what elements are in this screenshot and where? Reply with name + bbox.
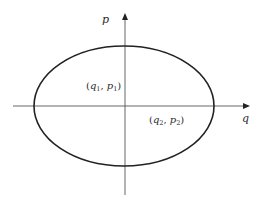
q-axis-label: q — [242, 113, 249, 124]
paren-close: ) — [117, 80, 121, 91]
p-axis-arrow-icon — [122, 13, 128, 20]
point-label-q1-p1: (q1, p1) — [86, 81, 121, 91]
diagram-canvas — [0, 0, 261, 201]
phase-space-diagram: p q (q1, p1) (q2, p2) — [0, 0, 261, 201]
point-label-q2-p2: (q2, p2) — [149, 115, 184, 125]
paren-close: ) — [180, 114, 184, 125]
p-axis-label: p — [102, 14, 109, 25]
q-axis-arrow-icon — [243, 103, 250, 109]
